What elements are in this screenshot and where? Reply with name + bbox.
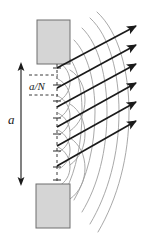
upper-barrier — [37, 20, 70, 64]
subslit-width-label: a/N — [29, 80, 46, 92]
slit-width-label: a — [8, 112, 15, 127]
diffraction-figure: a a/N — [0, 0, 147, 236]
lower-barrier — [36, 184, 70, 228]
diffraction-diagram-svg: a a/N — [0, 0, 147, 236]
